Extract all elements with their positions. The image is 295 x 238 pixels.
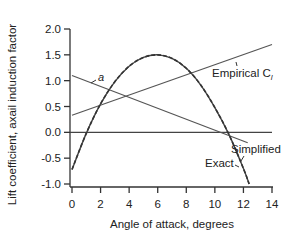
y-tick-label: 0.0 bbox=[45, 126, 61, 138]
y-tick-label: 1.0 bbox=[45, 75, 61, 87]
label-simplified: Simplified bbox=[231, 143, 281, 155]
label-a: a bbox=[98, 71, 104, 83]
label-exact: Exact bbox=[205, 157, 235, 169]
y-tick-label: 2.0 bbox=[45, 23, 61, 35]
arrow-a bbox=[91, 80, 96, 83]
x-axis-title: Angle of attack, degrees bbox=[110, 218, 234, 230]
x-tick-label: 2 bbox=[97, 198, 103, 210]
y-tick-label: 0.5 bbox=[45, 101, 61, 113]
series bbox=[72, 45, 272, 185]
chart: 2.01.51.00.50.0-0.5-1.002468101214 Angle… bbox=[0, 0, 295, 238]
y-tick-label: -0.5 bbox=[41, 152, 61, 164]
arrow-exact bbox=[235, 165, 239, 167]
x-tick-label: 10 bbox=[208, 198, 221, 210]
axes: 2.01.51.00.50.0-0.5-1.002468101214 bbox=[41, 23, 279, 210]
label-empirical-cl: Empirical Cl bbox=[212, 67, 273, 82]
arrow-simplified bbox=[241, 156, 244, 161]
arrow-empirical bbox=[236, 62, 237, 66]
x-tick-label: 8 bbox=[183, 198, 189, 210]
x-tick-label: 12 bbox=[237, 198, 250, 210]
x-tick-label: 14 bbox=[266, 198, 279, 210]
x-tick-label: 6 bbox=[155, 198, 161, 210]
y-axis-title: Lift coefficient, axail induction factor bbox=[6, 24, 18, 206]
y-tick-label: -1.0 bbox=[41, 178, 61, 190]
x-tick-label: 0 bbox=[69, 198, 75, 210]
x-tick-label: 4 bbox=[126, 198, 133, 210]
y-tick-label: 1.5 bbox=[45, 49, 61, 61]
